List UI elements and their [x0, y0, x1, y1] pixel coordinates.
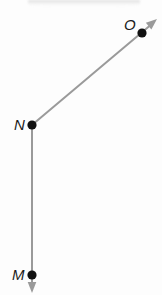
point-dot-m	[27, 270, 36, 279]
point-label-n: N	[14, 117, 25, 132]
point-label-o: O	[124, 17, 136, 32]
point-dot-o	[137, 28, 146, 37]
geometry-figure-canvas: O N M	[0, 0, 162, 295]
ray-no-line	[32, 23, 153, 125]
ray-nm	[28, 125, 37, 293]
point-dot-n	[27, 120, 36, 129]
point-label-m: M	[12, 267, 25, 282]
ray-nm-arrowhead	[28, 282, 37, 293]
figure-svg	[0, 0, 162, 295]
